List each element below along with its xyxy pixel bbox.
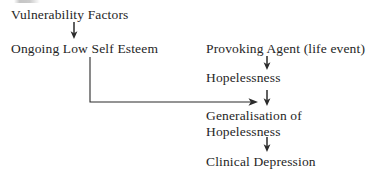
node-provoking-agent: Provoking Agent (life event) — [206, 41, 365, 56]
arrow-vulnerability-to-esteem-icon — [71, 22, 78, 39]
node-ongoing-low-self-esteem: Ongoing Low Self Esteem — [11, 41, 158, 56]
flow-diagram: Vulnerability Factors Ongoing Low Self E… — [0, 0, 392, 177]
arrow-hopelessness-to-generalisation-icon — [264, 90, 271, 106]
node-generalisation-of-hopelessness: Generalisation of Hopelessness — [206, 108, 316, 140]
connector-layer — [0, 0, 392, 177]
arrow-provoking-to-hopelessness-icon — [264, 56, 271, 70]
node-clinical-depression: Clinical Depression — [206, 154, 316, 169]
node-vulnerability-factors: Vulnerability Factors — [11, 7, 128, 22]
node-hopelessness: Hopelessness — [206, 70, 281, 85]
